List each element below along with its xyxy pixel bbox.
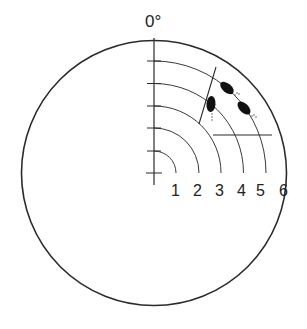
ring-label-1: 1 bbox=[171, 182, 180, 199]
zero-degree-label: 0° bbox=[145, 12, 161, 31]
polar-diagram: 0° 1 2 3 4 5 6 bbox=[0, 0, 307, 329]
marker-spot-b bbox=[235, 99, 253, 117]
ring-1-arc bbox=[154, 151, 176, 173]
slanted-line bbox=[199, 67, 216, 124]
ring-label-3: 3 bbox=[215, 182, 224, 199]
ring-5-arc bbox=[154, 61, 266, 173]
ring-label-2: 2 bbox=[193, 182, 202, 199]
dotted-trails bbox=[211, 92, 257, 121]
ring-label-4: 4 bbox=[237, 182, 246, 199]
ring-label-5: 5 bbox=[256, 182, 265, 199]
ring-4-arc bbox=[154, 84, 244, 174]
ring-labels: 1 2 3 4 5 6 bbox=[171, 182, 288, 199]
ring-arcs bbox=[154, 61, 266, 173]
marker-spot-c bbox=[206, 96, 216, 113]
ring-label-6: 6 bbox=[279, 182, 288, 199]
ring-3-arc bbox=[154, 106, 221, 173]
